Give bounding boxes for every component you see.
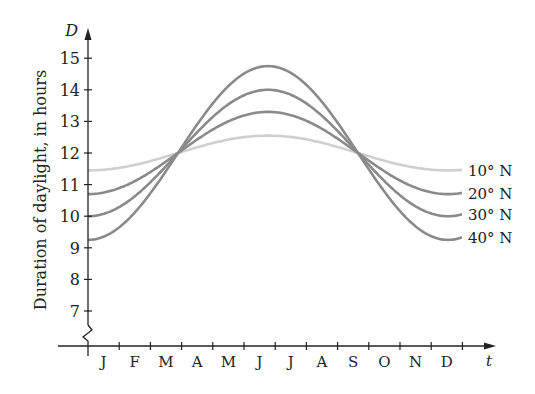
y-tick-label: 9 bbox=[70, 239, 80, 258]
chart-svg: 10° N20° N30° N40° N789101112131415DDura… bbox=[0, 0, 535, 394]
x-tick-label: J bbox=[99, 353, 107, 371]
y-tick-label: 8 bbox=[70, 270, 80, 289]
daylight-chart: 10° N20° N30° N40° N789101112131415DDura… bbox=[0, 0, 535, 394]
series-line-1 bbox=[88, 112, 462, 194]
y-tick-label: 15 bbox=[60, 49, 80, 68]
y-tick-label: 12 bbox=[60, 144, 80, 163]
y-tick-label: 11 bbox=[60, 176, 80, 195]
x-axis-arrow-icon bbox=[484, 343, 496, 350]
y-axis-arrow-icon bbox=[85, 28, 92, 40]
x-tick-label: A bbox=[191, 353, 203, 371]
series-label: 40° N bbox=[468, 229, 512, 247]
series-label: 10° N bbox=[468, 162, 512, 180]
y-tick-label: 14 bbox=[60, 81, 80, 100]
y-tick-label: 13 bbox=[60, 112, 80, 131]
x-tick-label: N bbox=[409, 353, 422, 371]
x-tick-label: S bbox=[348, 353, 358, 371]
x-tick-label: O bbox=[378, 353, 390, 371]
y-axis-label: Duration of daylight, in hours bbox=[31, 70, 50, 310]
x-tick-label: A bbox=[316, 353, 328, 371]
x-tick-label: J bbox=[286, 353, 294, 371]
y-axis-symbol: D bbox=[64, 21, 78, 40]
series-line-0 bbox=[88, 136, 462, 171]
series-label: 30° N bbox=[468, 206, 512, 224]
x-tick-label: D bbox=[441, 353, 453, 371]
x-axis-label: t bbox=[486, 352, 493, 370]
series-line-2 bbox=[88, 90, 462, 216]
series-line-3 bbox=[88, 66, 462, 240]
x-tick-label: J bbox=[255, 353, 263, 371]
axis-break-icon bbox=[83, 325, 92, 356]
x-tick-label: F bbox=[130, 353, 140, 371]
y-tick-label: 10 bbox=[60, 207, 80, 226]
x-tick-label: M bbox=[221, 353, 236, 371]
x-tick-label: M bbox=[158, 353, 173, 371]
series-label: 20° N bbox=[468, 185, 512, 203]
y-tick-label: 7 bbox=[70, 302, 80, 321]
